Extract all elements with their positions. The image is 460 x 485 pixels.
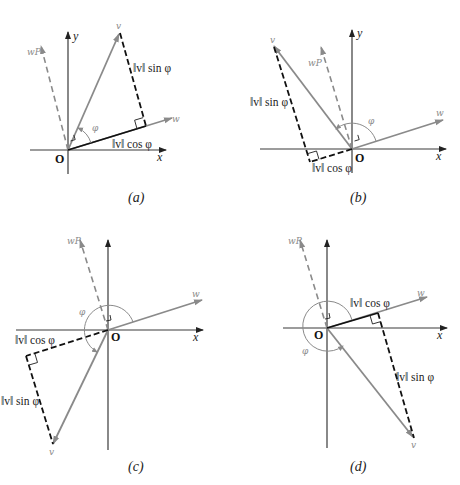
origin-right-angle-mark <box>355 135 360 141</box>
phi-label: φ <box>302 346 309 356</box>
wp-label: wP <box>308 58 323 68</box>
w-label: w <box>436 108 444 118</box>
x-label: x <box>435 149 442 163</box>
v-label: v <box>116 21 121 31</box>
caption-a: (a) <box>128 190 145 206</box>
wp-vector <box>321 47 352 149</box>
phi-label: φ <box>79 307 86 317</box>
wp-label: wP <box>288 236 303 246</box>
origin-label: O <box>314 328 323 342</box>
y-label: y <box>356 26 363 40</box>
origin-label: O <box>55 152 64 166</box>
sin-label: ‖v‖ sin φ <box>396 371 434 384</box>
wp-label: wP <box>67 236 82 246</box>
phi-label: φ <box>92 123 99 133</box>
cos-label: ‖v‖ cos φ <box>112 138 152 151</box>
panel-a: φ O x y v w wP ‖v‖ sin φ ‖v‖ cos φ (a) <box>27 21 180 206</box>
origin-label: O <box>111 330 120 344</box>
x-label: x <box>192 330 199 344</box>
w-label: w <box>192 289 200 299</box>
x-label: x <box>156 150 163 164</box>
w-vector <box>108 300 202 330</box>
origin-label: O <box>355 151 364 165</box>
w-label: w <box>417 288 425 298</box>
right-angle-mark <box>29 354 38 365</box>
v-label: v <box>49 447 54 457</box>
wp-vector <box>41 46 68 150</box>
vector-projection-figure: φ O x y v w wP ‖v‖ sin φ ‖v‖ cos φ (a) φ… <box>0 0 460 485</box>
wp-label: wP <box>27 47 42 57</box>
cos-label: ‖v‖ cos φ <box>15 334 55 347</box>
x-label: x <box>436 328 443 342</box>
caption-d: (d) <box>350 459 367 475</box>
sin-perpendicular <box>120 33 146 126</box>
panel-b: φ O x y v w wP ‖v‖ sin φ ‖v‖ cos φ (b) <box>250 26 446 206</box>
phi-arc <box>84 305 133 352</box>
panel-d: φ O x v w wP ‖v‖ sin φ ‖v‖ cos φ (d) <box>283 236 447 475</box>
v-label: v <box>411 440 416 450</box>
caption-b: (b) <box>350 190 367 206</box>
w-label: w <box>172 114 180 124</box>
caption-c: (c) <box>128 459 144 475</box>
v-label: v <box>270 35 275 45</box>
sin-label: ‖v‖ sin φ <box>1 395 39 408</box>
cos-label: ‖v‖ cos φ <box>312 162 352 175</box>
panel-c: φ O x v w wP ‖v‖ sin φ ‖v‖ cos φ (c) <box>1 236 203 475</box>
w-vector <box>352 120 443 149</box>
phi-label: φ <box>368 116 375 126</box>
phi-arc <box>78 128 91 143</box>
sin-label: ‖v‖ sin φ <box>133 62 171 75</box>
cos-projection <box>327 313 378 328</box>
y-label: y <box>72 29 79 43</box>
wp-vector <box>300 240 327 328</box>
cos-label: ‖v‖ cos φ <box>350 297 390 310</box>
right-angle-mark <box>308 151 319 159</box>
sin-label: ‖v‖ sin φ <box>250 96 288 109</box>
v-vector <box>53 330 108 444</box>
